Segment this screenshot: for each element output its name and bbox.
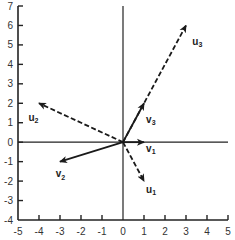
y-tick-label: 2 [7, 98, 13, 109]
y-tick-label: -1 [4, 156, 13, 167]
x-tick-label: -5 [14, 226, 23, 237]
y-tick-label: 4 [7, 59, 13, 70]
x-tick-label: -2 [77, 226, 86, 237]
vector-v2-arrow [60, 142, 123, 161]
y-tick-label: -2 [4, 176, 13, 187]
y-tick-label: 7 [7, 1, 13, 12]
vector-v1-label: v1 [146, 143, 156, 156]
vector-v3-label: v3 [146, 114, 156, 127]
x-tick-label: 2 [162, 226, 168, 237]
vector-labels: v1v2v3u1u2u3 [29, 36, 203, 196]
y-tick-label: 0 [7, 137, 13, 148]
x-tick-label: 0 [120, 226, 126, 237]
x-tick-label: -1 [98, 226, 107, 237]
x-tick-label: 3 [183, 226, 189, 237]
vectors [39, 25, 186, 181]
y-tick-label: 5 [7, 39, 13, 50]
x-tick-label: 1 [141, 226, 147, 237]
y-tick-label: -3 [4, 195, 13, 206]
vector-u2-arrow [39, 103, 123, 142]
y-tick-label: -4 [4, 215, 13, 226]
x-tick-label: 5 [225, 226, 231, 237]
vector-u1-arrow [123, 142, 144, 181]
x-tick-label: 4 [204, 226, 210, 237]
y-tick-label: 1 [7, 117, 13, 128]
y-tick-label: 6 [7, 20, 13, 31]
vector-u3-label: u3 [192, 36, 202, 49]
y-tick-label: 3 [7, 78, 13, 89]
vector-v2-label: v2 [56, 168, 66, 181]
vector-u2-label: u2 [29, 112, 39, 125]
vector-u1-label: u1 [146, 184, 156, 197]
x-tick-label: -3 [56, 226, 65, 237]
vector-plot: -5-4-3-2-1012345-4-3-2-101234567 v1v2v3u… [0, 0, 235, 240]
x-tick-label: -4 [35, 226, 44, 237]
